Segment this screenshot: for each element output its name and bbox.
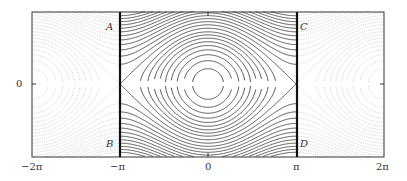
contour-line [185,61,232,79]
contour-line [330,38,384,81]
contour-line [369,69,384,82]
contour-line [324,87,384,133]
y-tick-label-0: 0 [16,78,22,89]
contour-line [120,84,296,140]
contour-line [32,46,75,83]
contour-line [177,86,239,113]
contour-line [185,89,232,107]
contour-line [353,86,384,113]
contour-line [32,86,47,99]
contour-line [120,22,296,56]
contour-line [32,38,86,81]
contour-line [141,32,276,81]
contour-line [177,55,239,82]
label-B: B [106,138,113,149]
x-tick-label-2pi: 2π [376,161,389,172]
contour-line [341,46,384,83]
phase-portrait-plot [0,0,407,181]
contour-line [32,88,56,108]
contour-line [120,112,296,146]
contour-line [341,86,384,123]
contour-line [32,86,63,113]
x-tick-label-0: 0 [205,161,211,172]
contour-line [193,69,224,82]
contour-line [160,90,255,127]
contour-line [347,88,384,118]
contour-line [154,38,261,79]
contour-line [296,104,384,143]
contour-line [32,69,47,82]
x-tick-label-pi: π [293,161,300,172]
contour-line [296,152,321,156]
contour-line [296,149,329,156]
contour-line [347,50,384,80]
x-tick-label-minus-2pi: −2π [21,161,42,172]
contour-line [330,86,384,129]
x-tick-label-minus-pi: −π [110,161,125,172]
contour-line [296,25,384,64]
contour-line [32,87,92,133]
contour-line [296,12,329,19]
contour-line [353,55,384,82]
contour-line [32,50,69,80]
contour-line [120,28,296,84]
contour-line [360,88,384,108]
contour-line [360,61,384,81]
contour-line [296,112,384,146]
contour-line [369,86,384,99]
contour-line [160,42,255,79]
label-D: D [300,138,308,149]
contour-line [193,86,224,99]
contour-line [32,86,86,129]
contour-line [87,12,120,19]
label-A: A [106,21,113,32]
contour-line [32,61,56,81]
contour-line [154,89,261,130]
contour-line [324,35,384,81]
contour-lines [32,12,384,157]
contour-line [87,149,120,156]
contour-line [296,22,384,56]
label-C: C [300,21,308,32]
contour-line [32,35,92,81]
contour-line [32,55,63,82]
contour-line [32,86,75,123]
contour-line [32,88,69,118]
contour-line [141,87,276,136]
